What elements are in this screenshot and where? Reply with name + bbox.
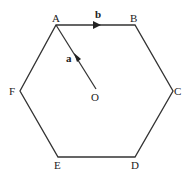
vertex-label-c: C xyxy=(174,85,181,97)
vector-b-arrowhead xyxy=(93,21,101,29)
vertex-label-d: D xyxy=(131,159,139,171)
vertex-label-b: B xyxy=(130,12,137,24)
vertex-label-e: E xyxy=(54,159,61,171)
vector-a-arrowhead xyxy=(74,53,81,62)
hexagon-diagram: A B C D E F O a b xyxy=(0,0,188,176)
vector-label-a: a xyxy=(66,52,72,64)
vector-label-b: b xyxy=(95,8,101,20)
centre-label-o: O xyxy=(91,91,99,103)
vertex-label-a: A xyxy=(52,12,60,24)
vertex-label-f: F xyxy=(9,85,15,97)
